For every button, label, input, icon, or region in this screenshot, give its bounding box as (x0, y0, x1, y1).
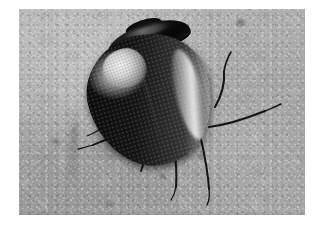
leg-hind-right-tarsus (207, 189, 209, 205)
leg-hind-right (201, 139, 209, 189)
margin-top (0, 0, 324, 9)
margin-right (305, 0, 324, 230)
margin-bottom (0, 215, 324, 230)
page-root (0, 0, 324, 230)
antenna-left-tip (78, 145, 93, 149)
leg-mid-right (209, 111, 265, 127)
margin-left (0, 0, 19, 230)
leg-hind-left-tarsus (87, 130, 99, 136)
photograph (19, 9, 305, 215)
beetle (19, 9, 305, 215)
leg-mid-right-tarsus (265, 104, 281, 111)
antenna-right (215, 71, 224, 107)
antenna-right-tip (224, 52, 231, 72)
leg-mid-left-tarsus (171, 187, 176, 200)
